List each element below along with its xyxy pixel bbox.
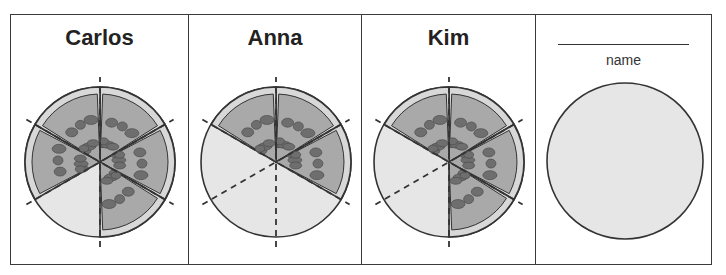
pizza-carlos (21, 73, 179, 251)
panel-anna: Anna (189, 15, 362, 264)
pizza-fraction-grid: Carlos Anna Kim name (10, 14, 712, 265)
panel-title: Carlos (11, 25, 188, 51)
panel-title: Anna (189, 25, 361, 51)
panel-carlos: Carlos (11, 15, 189, 264)
pizza-anna (197, 73, 355, 251)
name-label: name (536, 52, 711, 68)
name-write-line[interactable] (558, 44, 689, 45)
panel-kim: Kim (362, 15, 536, 264)
empty-pizza-circle (546, 81, 704, 241)
pizza-kim (370, 73, 528, 251)
panel-blank: name (536, 15, 711, 264)
panel-title: Kim (362, 25, 535, 51)
